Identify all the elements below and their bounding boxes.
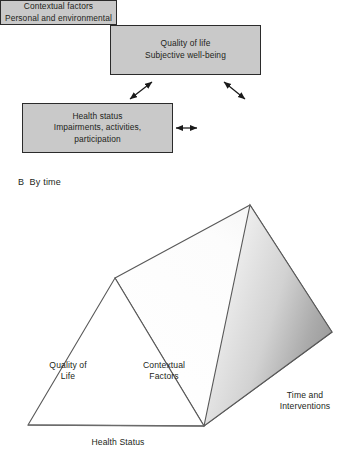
panel-a-connectors: [0, 0, 363, 200]
prism-label-quality-of-life: Quality of Life: [28, 360, 108, 383]
arrow-quality-to-contextual: [224, 82, 245, 99]
panel-b-caption: B By time: [18, 177, 61, 187]
prism-label-health-status: Health Status: [68, 437, 168, 448]
prism-diagram: [0, 190, 363, 459]
arrow-quality-to-health: [130, 82, 152, 99]
prism-label-time-and-interventions: Time and Interventions: [255, 390, 355, 413]
figure-canvas: Quality of life Subjective well-being He…: [0, 0, 363, 459]
prism-label-contextual-factors: Contextual Factors: [124, 360, 204, 383]
